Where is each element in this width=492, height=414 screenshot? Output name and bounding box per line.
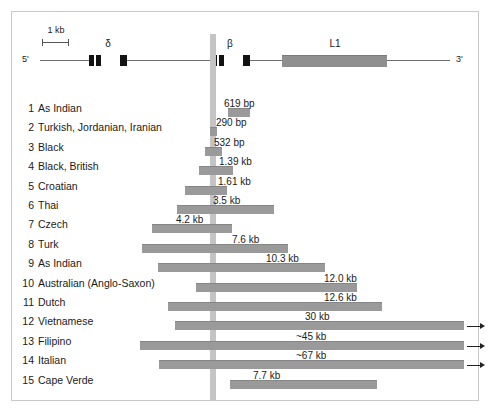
population-name: As Indian bbox=[38, 257, 82, 269]
l1-element-label: L1 bbox=[310, 38, 360, 49]
row-number: 5 bbox=[20, 180, 34, 192]
row-number: 14 bbox=[20, 354, 34, 366]
row-number: 7 bbox=[20, 218, 34, 230]
population-label: 13Filipino bbox=[20, 335, 71, 347]
deletion-bar bbox=[159, 360, 464, 369]
beta-gene-box bbox=[212, 55, 250, 66]
deletion-bar bbox=[142, 244, 288, 253]
deletion-row: 12Vietnamese30 kb bbox=[0, 313, 492, 332]
arrow-head bbox=[480, 323, 485, 329]
deletion-bar bbox=[199, 166, 233, 175]
population-label: 10Australian (Anglo-Saxon) bbox=[20, 277, 155, 289]
population-label: 12Vietnamese bbox=[20, 315, 93, 327]
deletion-bar bbox=[185, 186, 227, 195]
row-number: 4 bbox=[20, 160, 34, 172]
deletion-row: 13Filipino~45 kb bbox=[0, 333, 492, 352]
row-number: 15 bbox=[20, 374, 34, 386]
deletion-row: 15Cape Verde7.7 kb bbox=[0, 372, 492, 391]
deletion-size-label: 1.61 kb bbox=[218, 176, 251, 187]
deletion-size-label: 12.0 kb bbox=[324, 273, 357, 284]
delta-gene-label: δ bbox=[88, 38, 128, 49]
population-label: 14Italian bbox=[20, 354, 66, 366]
row-number: 2 bbox=[20, 121, 34, 133]
population-name: Croatian bbox=[38, 180, 78, 192]
open-ended-arrow-icon bbox=[467, 343, 485, 350]
population-name: Black, British bbox=[38, 160, 99, 172]
arrow-head bbox=[480, 343, 485, 349]
population-label: 11Dutch bbox=[20, 296, 65, 308]
population-name: Vietnamese bbox=[38, 315, 93, 327]
delta-gene-box bbox=[89, 55, 127, 66]
deletion-bar bbox=[175, 321, 464, 330]
deletion-bar bbox=[177, 205, 274, 214]
population-name: Italian bbox=[38, 354, 66, 366]
population-label: 2Turkish, Jordanian, Iranian bbox=[20, 121, 162, 133]
population-name: Thai bbox=[38, 199, 58, 211]
deletion-size-label: ~67 kb bbox=[296, 350, 326, 361]
population-label: 9As Indian bbox=[20, 257, 82, 269]
deletion-size-label: 1.39 kb bbox=[219, 156, 252, 167]
deletion-row: 9As Indian10.3 kb bbox=[0, 255, 492, 274]
gene-map: 5' 3' δ β L1 bbox=[0, 0, 492, 78]
population-name: As Indian bbox=[38, 102, 82, 114]
deletion-bar bbox=[140, 341, 464, 350]
open-ended-arrow-icon bbox=[467, 323, 485, 330]
deletion-size-label: 7.6 kb bbox=[232, 234, 259, 245]
deletion-bar bbox=[210, 127, 217, 136]
deletion-row: 10Australian (Anglo-Saxon)12.0 kb bbox=[0, 275, 492, 294]
population-name: Cape Verde bbox=[38, 374, 93, 386]
five-prime-label: 5' bbox=[22, 54, 29, 64]
deletion-bar bbox=[230, 380, 377, 389]
arrow-shaft bbox=[467, 346, 481, 347]
population-name: Czech bbox=[38, 218, 68, 230]
row-number: 9 bbox=[20, 257, 34, 269]
deletion-bar bbox=[228, 108, 250, 117]
deletion-rows: 1As Indian619 bp2Turkish, Jordanian, Ira… bbox=[0, 100, 492, 400]
deletion-size-label: 7.7 kb bbox=[253, 370, 280, 381]
deletion-map-figure: 1 kb 5' 3' δ β L1 1As Indian619 bp2Turk bbox=[0, 0, 492, 414]
deletion-bar bbox=[205, 147, 222, 156]
row-number: 12 bbox=[20, 315, 34, 327]
deletion-size-label: 10.3 kb bbox=[266, 253, 299, 264]
row-number: 8 bbox=[20, 238, 34, 250]
deletion-row: 6Thai3.5 kb bbox=[0, 197, 492, 216]
deletion-row: 5Croatian1.61 kb bbox=[0, 178, 492, 197]
deletion-size-label: 12.6 kb bbox=[324, 292, 357, 303]
row-number: 1 bbox=[20, 102, 34, 114]
beta-gene-label: β bbox=[215, 38, 245, 49]
population-name: Turkish, Jordanian, Iranian bbox=[38, 121, 162, 133]
deletion-row: 2Turkish, Jordanian, Iranian290 bp bbox=[0, 119, 492, 138]
three-prime-label: 3' bbox=[456, 54, 463, 64]
deletion-size-label: 532 bp bbox=[214, 137, 245, 148]
deletion-size-label: 619 bp bbox=[224, 98, 255, 109]
population-label: 8Turk bbox=[20, 238, 59, 250]
row-number: 13 bbox=[20, 335, 34, 347]
deletion-bar bbox=[168, 302, 382, 311]
deletion-size-label: ~45 kb bbox=[296, 331, 326, 342]
deletion-bar bbox=[196, 283, 357, 292]
arrow-head bbox=[480, 362, 485, 368]
population-label: 5Croatian bbox=[20, 180, 78, 192]
l1-element-box bbox=[282, 55, 387, 67]
population-label: 6Thai bbox=[20, 199, 58, 211]
population-name: Turk bbox=[38, 238, 59, 250]
row-number: 10 bbox=[20, 277, 34, 289]
deletion-size-label: 30 kb bbox=[305, 311, 329, 322]
population-name: Australian (Anglo-Saxon) bbox=[38, 277, 155, 289]
population-name: Filipino bbox=[38, 335, 71, 347]
deletion-row: 14Italian~67 kb bbox=[0, 352, 492, 371]
open-ended-arrow-icon bbox=[467, 362, 485, 369]
beta-exon-3 bbox=[243, 55, 250, 66]
deletion-row: 8Turk7.6 kb bbox=[0, 236, 492, 255]
row-number: 6 bbox=[20, 199, 34, 211]
population-name: Dutch bbox=[38, 296, 65, 308]
deletion-bar bbox=[158, 263, 325, 272]
deletion-size-label: 3.5 kb bbox=[213, 195, 240, 206]
delta-intron-2 bbox=[101, 55, 120, 66]
beta-intron-2 bbox=[224, 55, 243, 66]
deletion-bar bbox=[152, 224, 232, 233]
delta-exon-3 bbox=[120, 55, 127, 66]
population-name: Black bbox=[38, 141, 64, 153]
population-label: 7Czech bbox=[20, 218, 68, 230]
population-label: 3Black bbox=[20, 141, 64, 153]
